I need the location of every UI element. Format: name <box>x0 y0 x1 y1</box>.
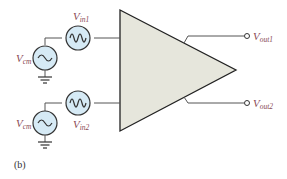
output-1: Vout1 <box>184 30 273 44</box>
output-2-terminal-icon <box>245 101 250 106</box>
ground-icon <box>38 142 52 148</box>
diff-amp-diagram: Vin1 Vcm Vin2 Vcm Vout1 Vout2 (b) <box>0 0 287 179</box>
amplifier-triangle <box>120 10 236 131</box>
output-2: Vout2 <box>184 97 273 111</box>
input-1-circuit: Vin1 Vcm <box>16 10 120 83</box>
output-1-terminal-icon <box>245 34 250 39</box>
vcm2-label: Vcm <box>16 117 32 131</box>
vin1-label: Vin1 <box>73 10 89 24</box>
input-2-circuit: Vin2 Vcm <box>16 91 120 148</box>
vcm1-label: Vcm <box>16 52 32 66</box>
vout2-label: Vout2 <box>253 97 273 111</box>
ground-icon <box>38 77 52 83</box>
vin2-label: Vin2 <box>73 118 90 132</box>
figure-caption: (b) <box>14 159 26 171</box>
vout1-label: Vout1 <box>253 30 273 44</box>
